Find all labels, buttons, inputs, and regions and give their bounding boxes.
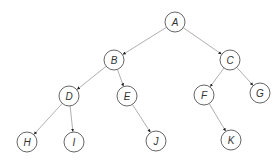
node-a: A — [165, 12, 185, 32]
node-k: K — [221, 130, 241, 150]
node-e: E — [117, 86, 137, 106]
edge-a-b — [123, 27, 167, 54]
edge-d-i — [70, 106, 73, 132]
node-d: D — [59, 86, 79, 106]
node-label: I — [73, 137, 76, 148]
node-label: A — [171, 17, 179, 28]
node-c: C — [220, 50, 240, 70]
tree-diagram: ABCDEFGHIJK — [0, 0, 280, 164]
node-label: G — [256, 88, 264, 99]
edge-b-e — [117, 69, 123, 86]
node-label: J — [153, 136, 160, 147]
edge-c-g — [237, 67, 253, 85]
edge-e-j — [132, 104, 150, 132]
node-i: I — [64, 132, 84, 152]
edge-b-d — [77, 66, 106, 89]
edge-d-h — [34, 103, 62, 134]
node-label: F — [201, 90, 208, 101]
node-label: C — [226, 55, 234, 66]
nodes-layer: ABCDEFGHIJK — [17, 12, 270, 152]
edge-f-k — [209, 104, 225, 131]
edge-c-f — [210, 68, 224, 87]
node-label: H — [23, 137, 31, 148]
node-h: H — [17, 132, 37, 152]
node-label: E — [124, 91, 131, 102]
node-label: D — [65, 91, 72, 102]
node-label: B — [111, 55, 118, 66]
node-j: J — [146, 131, 166, 151]
node-b: B — [104, 50, 124, 70]
node-g: G — [250, 83, 270, 103]
edge-a-c — [183, 28, 221, 54]
node-f: F — [194, 85, 214, 105]
edges-layer — [34, 27, 253, 134]
